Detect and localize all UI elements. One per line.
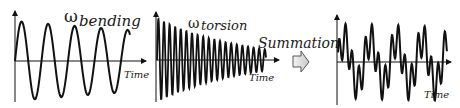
summation-connector: Summation [258,35,339,72]
torsion-panel: ω torsion Time [156,12,279,102]
omega-symbol: ω [64,6,78,26]
time-label: Time [124,69,149,80]
summation-panel: Time [337,15,451,105]
arrow-right-icon [293,51,309,72]
vibration-diagram: ω bending Time ω torsion Time Summation … [0,0,460,108]
bending-panel: ω bending Time [15,6,149,102]
summation-label: Summation [258,35,339,51]
torsion-label: torsion [201,18,247,33]
bending-label: bending [79,12,141,30]
bending-wave [15,22,130,100]
omega-symbol: ω [188,15,199,31]
time-label: Time [249,72,274,83]
time-label: Time [424,89,449,100]
